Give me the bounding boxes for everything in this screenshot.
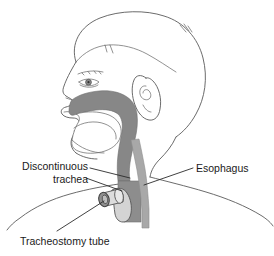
tracheostomy-diagram: Discontinuous trachea Esophagus Tracheos…: [0, 0, 274, 256]
label-esophagus: Esophagus: [196, 162, 249, 174]
eye-pupil: [87, 81, 89, 83]
label-tracheostomy-tube: Tracheostomy tube: [20, 235, 110, 247]
label-discontinuous-trachea-line1: Discontinuous: [22, 160, 88, 172]
label-discontinuous-trachea-line2: trachea: [53, 173, 88, 185]
oral-cavity-shape: [72, 112, 121, 153]
anatomy-illustration: Discontinuous trachea Esophagus Tracheos…: [0, 0, 274, 256]
